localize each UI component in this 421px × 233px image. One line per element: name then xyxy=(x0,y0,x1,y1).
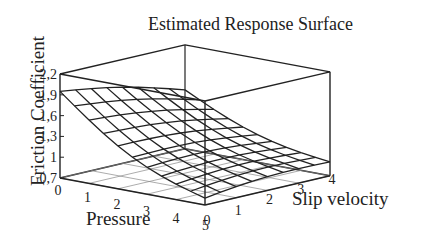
y-tick-label: 4 xyxy=(329,172,336,187)
response-surface-chart: 0,711,31,61,92,201234501234 Estimated Re… xyxy=(0,0,421,233)
chart-title: Estimated Response Surface xyxy=(148,14,353,35)
y-tick-label: 0 xyxy=(204,213,211,228)
x-tick-label: 1 xyxy=(84,190,91,205)
x-tick-label: 0 xyxy=(55,183,62,198)
x-tick-label: 4 xyxy=(173,211,180,226)
y-tick-label: 2 xyxy=(266,192,273,207)
z-tick-label: 1 xyxy=(50,150,57,165)
y-tick-label: 1 xyxy=(235,203,242,218)
x-axis-label: Pressure xyxy=(86,208,150,230)
y-axis-label: Slip velocity xyxy=(292,188,389,210)
z-axis-label: Friction Coefficient xyxy=(27,21,49,201)
